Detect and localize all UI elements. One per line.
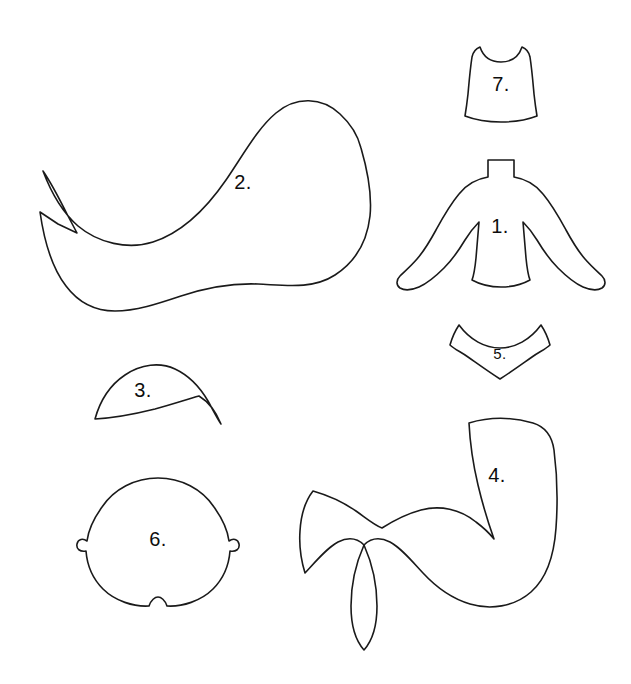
piece-5-number: 5. [493,345,507,362]
pattern-piece-head[interactable]: 6. [77,478,239,606]
piece-4-number: 4. [488,464,506,486]
piece-6-number: 6. [149,528,167,550]
piece-7-number: 7. [492,73,510,95]
pattern-piece-hair-fringe[interactable]: 3. [95,365,221,424]
piece-2-number: 2. [234,171,252,193]
piece-3-outline [95,365,221,424]
piece-3-number: 3. [134,379,152,401]
pattern-piece-bikini-top[interactable]: 5. [450,325,550,379]
pattern-piece-mermaid-tail[interactable]: 4. [300,419,557,651]
piece-4-outline [300,419,557,651]
piece-2-outline [40,101,371,311]
pattern-canvas: 2. 7. 1. 5. 3. 6. 4. [0,0,631,684]
pattern-piece-vest-bodice[interactable]: 7. [465,47,537,122]
pattern-piece-long-hair[interactable]: 2. [40,101,371,311]
piece-1-number: 1. [491,215,509,237]
pattern-sheet: 2. 7. 1. 5. 3. 6. 4. [0,0,631,684]
pattern-piece-torso[interactable]: 1. [397,160,605,290]
